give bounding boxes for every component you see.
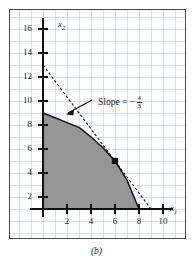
slope-annotation: Slope = − 4 3 — [98, 95, 142, 111]
y-axis-label: x2 — [58, 20, 65, 31]
slope-fraction: 4 3 — [137, 95, 143, 111]
ytick-14: 14 — [16, 48, 32, 57]
ytick-12: 12 — [16, 72, 32, 81]
slope-annotation-text: Slope = − — [98, 98, 135, 108]
xtick-8: 8 — [133, 217, 145, 226]
xtick-4: 4 — [85, 217, 97, 226]
xtick-10: 10 — [157, 217, 169, 226]
ytick-4: 4 — [16, 168, 32, 177]
chart-canvas — [10, 10, 185, 238]
figure-container: 16 14 12 10 8 6 4 2 2 4 6 8 10 x2 x1 Slo… — [0, 0, 193, 272]
ytick-2: 2 — [16, 192, 32, 201]
tangency-point-marker — [112, 158, 118, 164]
ytick-6: 6 — [16, 144, 32, 153]
ytick-16: 16 — [16, 24, 32, 33]
figure-caption: (b) — [0, 246, 193, 256]
x-axis-label: x1 — [170, 204, 177, 215]
xtick-6: 6 — [109, 217, 121, 226]
slope-denominator: 3 — [137, 102, 143, 110]
xtick-2: 2 — [61, 217, 73, 226]
ytick-8: 8 — [16, 120, 32, 129]
ytick-10: 10 — [16, 96, 32, 105]
slope-numerator: 4 — [137, 95, 143, 102]
plot-frame: 16 14 12 10 8 6 4 2 2 4 6 8 10 x2 x1 Slo… — [9, 9, 186, 239]
